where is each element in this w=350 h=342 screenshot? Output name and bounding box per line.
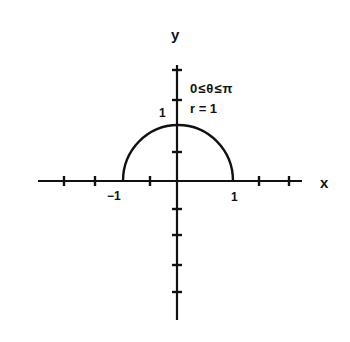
tick-label-x-neg-one: −1	[107, 189, 121, 203]
polar-plot: y x 1 −1 1 0≤θ≤π r = 1	[0, 0, 350, 342]
tick-label-x-one: 1	[231, 190, 238, 204]
y-axis-label: y	[171, 26, 180, 43]
radius-annotation: r = 1	[190, 101, 217, 116]
x-axis-label: x	[320, 174, 329, 191]
tick-label-y-one: 1	[159, 106, 166, 120]
theta-range-annotation: 0≤θ≤π	[190, 81, 233, 96]
axes	[38, 65, 302, 320]
